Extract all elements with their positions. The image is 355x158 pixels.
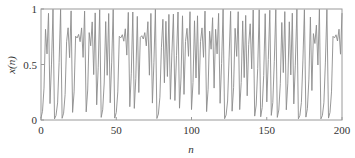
x-tick-label: 0 xyxy=(38,124,44,136)
x-tick-label: 150 xyxy=(259,124,276,136)
y-tick-label: 1 xyxy=(32,3,38,15)
x-tick-label: 200 xyxy=(334,124,351,136)
chaotic-sequence-chart: 050100150200 00.51 n x(n) xyxy=(0,0,355,158)
y-tick-label: 0.5 xyxy=(23,59,37,71)
y-axis-label: x(n) xyxy=(5,56,18,75)
x-axis-label: n xyxy=(188,143,194,155)
x-tick-label: 100 xyxy=(183,124,200,136)
y-tick-label: 0 xyxy=(32,114,38,126)
x-tick-label: 50 xyxy=(111,124,123,136)
